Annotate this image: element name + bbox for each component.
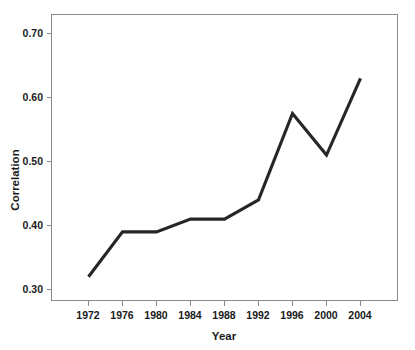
y-tick-label-3: 0.40 <box>23 219 44 231</box>
x-tick-label-1972: 1972 <box>76 309 100 321</box>
y-tick-label-1: 0.60 <box>23 91 44 103</box>
x-tick-label-2000: 2000 <box>314 309 338 321</box>
x-tick-label-1984: 1984 <box>178 309 202 321</box>
x-tick-label-2004: 2004 <box>348 309 372 321</box>
y-tick-label-2: 0.50 <box>23 155 44 167</box>
x-tick-label-1992: 1992 <box>246 309 270 321</box>
chart-background <box>0 0 415 350</box>
line-chart: 0.70 0.60 0.50 0.40 0.30 1972 1976 1980 … <box>0 0 415 350</box>
x-axis-tick-labels: 1972 1976 1980 1984 1988 1992 1996 2000 … <box>76 309 372 321</box>
x-tick-label-1980: 1980 <box>144 309 168 321</box>
y-axis-title: Correlation <box>9 149 21 210</box>
x-tick-label-1988: 1988 <box>212 309 236 321</box>
chart-canvas: 0.70 0.60 0.50 0.40 0.30 1972 1976 1980 … <box>0 0 415 350</box>
y-tick-label-0: 0.70 <box>23 27 44 39</box>
x-tick-label-1976: 1976 <box>110 309 134 321</box>
x-tick-label-1996: 1996 <box>280 309 304 321</box>
x-axis-title: Year <box>212 330 237 342</box>
y-tick-label-4: 0.30 <box>23 283 44 295</box>
